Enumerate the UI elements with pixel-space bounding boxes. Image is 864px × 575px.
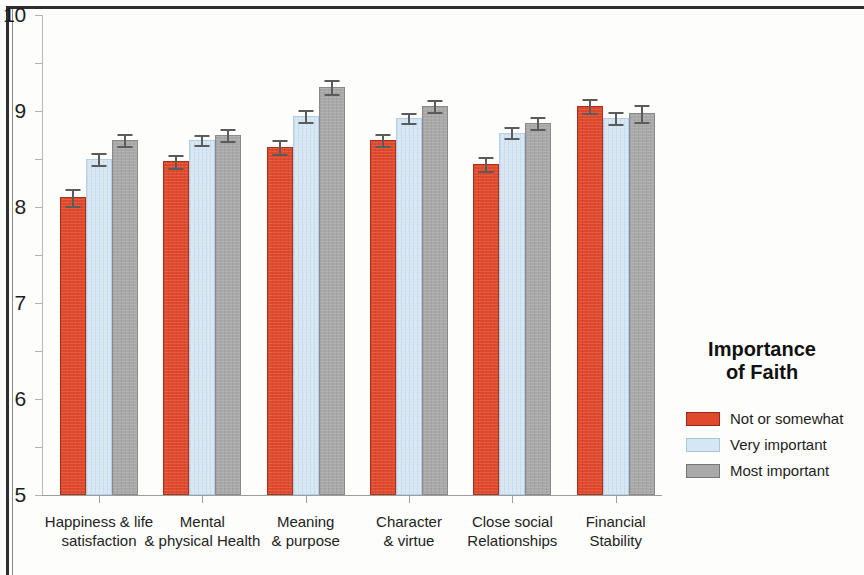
chart-figure: 109876543210 Happiness & lifesatisfactio… <box>0 0 864 575</box>
legend: Importance of Faith Not or somewhatVery … <box>686 338 858 488</box>
x-axis-category-label-line: Mental <box>144 512 260 531</box>
page-border-left-inner <box>12 9 13 575</box>
bar-texture <box>423 107 447 494</box>
bar-texture <box>604 119 628 494</box>
bar <box>293 116 319 495</box>
x-axis-category-label: Close socialRelationships <box>467 512 557 550</box>
bar <box>603 118 629 495</box>
error-bar-cap <box>118 146 133 148</box>
y-axis-tick: 7 <box>35 159 42 160</box>
error-bar-cap <box>221 141 236 143</box>
x-axis-tick <box>512 495 513 503</box>
bar <box>629 113 655 495</box>
bar <box>370 140 396 495</box>
bar-texture <box>164 162 188 494</box>
error-bar-cap <box>402 113 417 115</box>
x-axis-category-label-line: Meaning <box>271 512 339 531</box>
error-bar-cap <box>608 124 623 126</box>
x-axis-category-label-line: Stability <box>586 531 646 550</box>
error-bar <box>589 99 591 113</box>
x-axis-category-label-line: & virtue <box>376 531 442 550</box>
x-axis-tick <box>99 495 100 503</box>
error-bar-cap <box>608 112 623 114</box>
bar-texture <box>216 136 240 494</box>
legend-title-line-2: of Faith <box>686 361 838 384</box>
y-axis-line <box>42 15 43 496</box>
error-bar-cap <box>428 112 443 114</box>
legend-entries: Not or somewhatVery importantMost import… <box>686 410 858 479</box>
legend-entry[interactable]: Not or somewhat <box>686 410 858 427</box>
error-bar-cap <box>272 140 287 142</box>
x-axis-category-label-line: Character <box>376 512 442 531</box>
error-bar-cap <box>324 94 339 96</box>
x-axis-category-label: Meaning& purpose <box>271 512 339 550</box>
error-bar-cap <box>402 123 417 125</box>
y-axis-tick: 0 <box>35 495 42 496</box>
error-bar-cap <box>505 138 520 140</box>
bar-texture <box>87 160 111 494</box>
y-axis-tick-label: 8 <box>15 195 26 219</box>
x-axis-tick <box>306 495 307 503</box>
bar <box>525 123 551 495</box>
bar <box>215 135 241 495</box>
x-axis-category-label: Character& virtue <box>376 512 442 550</box>
legend-entry-label: Very important <box>730 436 827 453</box>
bar-texture <box>526 124 550 494</box>
y-axis-tick: 9 <box>35 63 42 64</box>
error-bar-cap <box>92 165 107 167</box>
error-bar-cap <box>298 110 313 112</box>
x-axis-category-label: Happiness & lifesatisfaction <box>45 512 153 550</box>
legend-swatch <box>686 412 720 426</box>
error-bar-cap <box>195 145 210 147</box>
error-bar-cap <box>66 189 81 191</box>
error-bar-cap <box>376 146 391 148</box>
legend-entry-label: Most important <box>730 462 829 479</box>
bar-texture <box>474 165 498 494</box>
bar <box>267 147 293 495</box>
error-bar-cap <box>195 135 210 137</box>
error-bar-cap <box>272 154 287 156</box>
bar <box>422 106 448 495</box>
legend-title-line-1: Importance <box>686 338 838 361</box>
bar <box>319 87 345 495</box>
error-bar-cap <box>531 129 546 131</box>
error-bar-cap <box>428 100 443 102</box>
x-axis-category-label-line: & physical Health <box>144 531 260 550</box>
error-bar-cap <box>505 127 520 129</box>
legend-entry[interactable]: Most important <box>686 462 858 479</box>
bar <box>499 133 525 495</box>
error-bar-cap <box>634 105 649 107</box>
error-bar-cap <box>169 155 184 157</box>
bar <box>189 140 215 495</box>
x-axis-category-label-line: Relationships <box>467 531 557 550</box>
error-bar-cap <box>479 157 494 159</box>
legend-swatch <box>686 438 720 452</box>
y-axis-tick-label: 10 <box>3 3 26 27</box>
bar <box>163 161 189 495</box>
y-axis-tick: 8 <box>35 111 42 112</box>
bar <box>473 164 499 495</box>
error-bar-cap <box>298 122 313 124</box>
page-border-top <box>6 6 864 9</box>
y-axis-tick: 5 <box>35 255 42 256</box>
legend-entry[interactable]: Very important <box>686 436 858 453</box>
error-bar-cap <box>479 171 494 173</box>
y-axis-tick: 10 <box>35 15 42 16</box>
error-bar <box>331 80 333 94</box>
x-axis-category-label: FinancialStability <box>586 512 646 550</box>
x-axis-category-label-line: Happiness & life <box>45 512 153 531</box>
bar <box>60 197 86 495</box>
error-bar-cap <box>221 129 236 131</box>
error-bar <box>641 105 643 122</box>
bar <box>86 159 112 495</box>
error-bar-cap <box>66 206 81 208</box>
x-axis-category-label-line: satisfaction <box>45 531 153 550</box>
bar <box>396 118 422 495</box>
y-axis-tick-label: 6 <box>15 387 26 411</box>
bar-texture <box>320 88 344 494</box>
error-bar <box>72 189 74 205</box>
y-axis-tick: 1 <box>35 447 42 448</box>
x-axis-category-label: Mental& physical Health <box>144 512 260 550</box>
error-bar-cap <box>118 134 133 136</box>
x-axis-tick <box>616 495 617 503</box>
